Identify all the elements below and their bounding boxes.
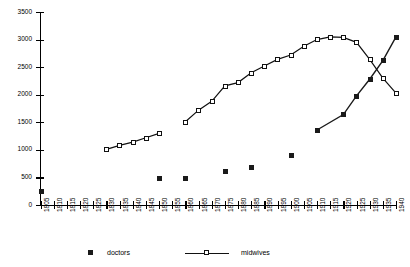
series-line bbox=[185, 37, 396, 122]
midwives-data-point bbox=[249, 71, 254, 76]
midwives-data-point bbox=[341, 35, 346, 40]
midwives-marker-icon bbox=[204, 250, 209, 255]
midwives-data-point bbox=[196, 108, 201, 113]
midwives-data-point bbox=[302, 44, 307, 49]
doctors-data-point bbox=[394, 35, 399, 40]
doctors-data-point bbox=[341, 112, 346, 117]
midwives-data-point bbox=[328, 35, 333, 40]
midwives-data-point bbox=[117, 143, 122, 148]
legend-label-midwives: midwives bbox=[241, 249, 270, 256]
doctors-data-point bbox=[223, 169, 228, 174]
midwives-data-point bbox=[289, 53, 294, 58]
midwives-data-point bbox=[144, 136, 149, 141]
legend-label-doctors: doctors bbox=[107, 249, 130, 256]
doctors-data-point bbox=[157, 176, 162, 181]
midwives-data-point bbox=[368, 57, 373, 62]
midwives-data-point bbox=[394, 91, 399, 96]
doctors-marker-icon bbox=[88, 250, 93, 255]
series-lines bbox=[0, 0, 410, 267]
series-line bbox=[317, 37, 396, 130]
midwives-data-point bbox=[223, 84, 228, 89]
doctors-data-point bbox=[315, 128, 320, 133]
chart-legend: doctors midwives bbox=[0, 243, 410, 267]
midwives-data-point bbox=[157, 131, 162, 136]
midwives-data-point bbox=[315, 37, 320, 42]
midwives-data-point bbox=[236, 80, 241, 85]
chart-container: 0500100015002000250030003500 18051810181… bbox=[0, 0, 410, 267]
doctors-data-point bbox=[354, 94, 359, 99]
midwives-data-point bbox=[275, 57, 280, 62]
midwives-data-point bbox=[354, 40, 359, 45]
midwives-data-point bbox=[131, 140, 136, 145]
doctors-data-point bbox=[183, 176, 188, 181]
midwives-data-point bbox=[381, 76, 386, 81]
midwives-data-point bbox=[104, 147, 109, 152]
doctors-data-point bbox=[39, 189, 44, 194]
doctors-data-point bbox=[381, 58, 386, 63]
doctors-data-point bbox=[289, 153, 294, 158]
midwives-data-point bbox=[210, 99, 215, 104]
doctors-data-point bbox=[368, 77, 373, 82]
midwives-data-point bbox=[183, 120, 188, 125]
doctors-data-point bbox=[249, 165, 254, 170]
midwives-data-point bbox=[262, 64, 267, 69]
